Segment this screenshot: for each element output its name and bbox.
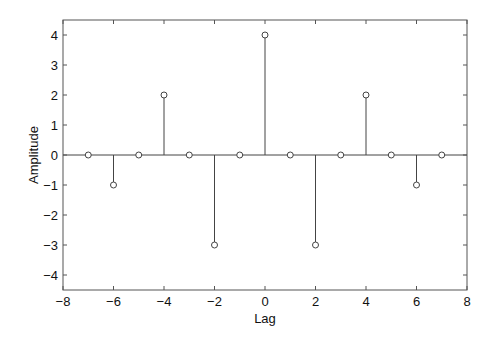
x-axis-label: Lag xyxy=(254,311,276,326)
y-tick-label: 0 xyxy=(51,148,58,163)
stem-marker xyxy=(186,152,192,158)
stem-marker xyxy=(414,182,420,188)
stem-marker xyxy=(388,152,394,158)
y-tick-label: −3 xyxy=(43,238,58,253)
y-tick-label: −4 xyxy=(43,268,58,283)
y-tick-label: −2 xyxy=(43,208,58,223)
y-tick-label: 4 xyxy=(51,28,58,43)
stem-marker xyxy=(136,152,142,158)
stem-marker xyxy=(111,182,117,188)
x-tick-label: 4 xyxy=(362,294,369,309)
stem-marker xyxy=(338,152,344,158)
stem-marker xyxy=(262,32,268,38)
y-tick-label: −1 xyxy=(43,178,58,193)
stem-marker xyxy=(212,242,218,248)
stem-plot: −8−6−4−202468 −4−3−2−101234 Lag Amplitud… xyxy=(0,0,494,338)
x-tick-label: 2 xyxy=(312,294,319,309)
y-tick-label: 3 xyxy=(51,58,58,73)
x-tick-label: 8 xyxy=(463,294,470,309)
x-tick-label: −6 xyxy=(106,294,121,309)
stem-marker xyxy=(237,152,243,158)
x-tick-label: −2 xyxy=(207,294,222,309)
stem-marker xyxy=(287,152,293,158)
y-tick-label: 2 xyxy=(51,88,58,103)
y-tick-label: 1 xyxy=(51,118,58,133)
stem-marker xyxy=(439,152,445,158)
x-tick-label: −8 xyxy=(56,294,71,309)
stem-marker xyxy=(161,92,167,98)
stem-marker xyxy=(313,242,319,248)
x-tick-label: −4 xyxy=(157,294,172,309)
x-tick-label: 6 xyxy=(413,294,420,309)
stem-marker xyxy=(363,92,369,98)
stem-marker xyxy=(85,152,91,158)
x-tick-label: 0 xyxy=(261,294,268,309)
y-axis-label: Amplitude xyxy=(26,126,41,184)
